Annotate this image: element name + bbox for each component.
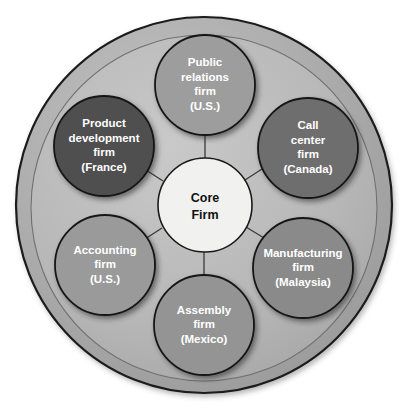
manufacturing-firm-label-line-1: Manufacturing — [263, 247, 342, 259]
call-center-firm-label-line-3: firm — [297, 148, 319, 160]
accounting-firm-label-line-3: (U.S.) — [90, 273, 120, 285]
core-firm-label-line-2: Firm — [191, 208, 218, 222]
diagram-root: Publicrelationsfirm(U.S.)Callcenterfirm(… — [0, 0, 409, 413]
assembly-firm-label-line-2: firm — [193, 318, 215, 330]
satellite-node-product-development-firm[interactable]: Productdevelopmentfirm(France) — [54, 96, 154, 196]
network-diagram: Publicrelationsfirm(U.S.)Callcenterfirm(… — [0, 0, 409, 413]
call-center-firm-label-line-4: (Canada) — [283, 163, 332, 175]
satellite-node-manufacturing-firm[interactable]: Manufacturingfirm(Malaysia) — [253, 218, 353, 318]
core-firm-node[interactable]: Core Firm — [158, 158, 252, 252]
public-relations-firm-label-line-4: (U.S.) — [190, 100, 220, 112]
accounting-firm-label-line-1: Accounting — [73, 244, 136, 256]
product-development-firm-label-line-2: development — [69, 132, 140, 144]
manufacturing-firm-label-line-2: firm — [292, 261, 314, 273]
manufacturing-firm-label-line-3: (Malaysia) — [275, 276, 331, 288]
satellite-node-accounting-firm[interactable]: Accountingfirm(U.S.) — [55, 215, 155, 315]
call-center-firm-label-line-1: Call — [297, 119, 318, 131]
product-development-firm-label-line-1: Product — [82, 117, 126, 129]
public-relations-firm-label-line-3: firm — [194, 85, 216, 97]
public-relations-firm-label-line-1: Public — [188, 56, 223, 68]
assembly-firm-label-line-3: (Mexico) — [181, 333, 228, 345]
assembly-firm-label-line-1: Assembly — [177, 304, 232, 316]
call-center-firm-label-line-2: center — [291, 134, 326, 146]
accounting-firm-label-line-2: firm — [94, 258, 116, 270]
satellite-node-assembly-firm[interactable]: Assemblyfirm(Mexico) — [154, 275, 254, 375]
satellite-node-call-center-firm[interactable]: Callcenterfirm(Canada) — [258, 98, 358, 198]
product-development-firm-label-line-4: (France) — [81, 161, 127, 173]
public-relations-firm-label-line-2: relations — [181, 71, 229, 83]
product-development-firm-label-line-3: firm — [93, 146, 115, 158]
core-firm-label-line-1: Core — [191, 191, 220, 205]
satellite-node-public-relations-firm[interactable]: Publicrelationsfirm(U.S.) — [155, 35, 255, 135]
